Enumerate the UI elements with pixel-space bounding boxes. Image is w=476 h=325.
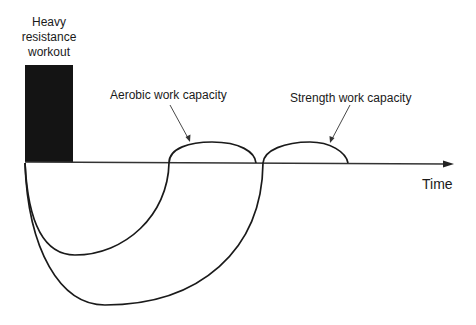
time-axis: [25, 162, 447, 164]
recovery-diagram: [0, 0, 476, 325]
strength-recovery-curve: [25, 163, 263, 305]
aerobic-recovery-curve: [25, 163, 169, 255]
strength-pointer-arrow: [332, 105, 350, 139]
strength-pointer-arrowhead-icon: [330, 136, 335, 143]
axis-arrowhead-icon: [443, 161, 454, 168]
strength-capacity-hump: [263, 142, 348, 163]
aerobic-pointer-arrow: [170, 105, 188, 138]
aerobic-capacity-hump: [169, 142, 256, 163]
workout-block: [25, 65, 73, 162]
